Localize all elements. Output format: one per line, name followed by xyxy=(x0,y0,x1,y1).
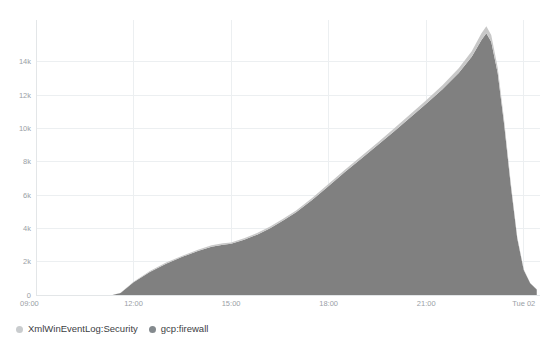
legend-color-swatch-icon xyxy=(149,326,156,333)
chart-canvas[interactable]: 02k4k6k8k10k12k14k 09:0012:0015:0018:002… xyxy=(0,0,558,316)
legend-item-gcp-firewall[interactable]: gcp:firewall xyxy=(149,323,209,335)
x-axis-tick-labels: 09:0012:0015:0018:0021:00Tue 02 xyxy=(20,299,535,308)
y-axis-tick-label: 12k xyxy=(19,91,31,100)
legend-item-label: XmlWinEventLog:Security xyxy=(28,323,138,335)
y-axis-tick-label: 14k xyxy=(19,57,31,66)
legend-color-swatch-icon xyxy=(16,326,23,333)
chart-legend: XmlWinEventLog:Security gcp:firewall xyxy=(16,322,208,336)
x-axis-tick-label: Tue 02 xyxy=(512,299,535,308)
x-axis-tick-label: 12:00 xyxy=(124,299,143,308)
area-chart: 02k4k6k8k10k12k14k 09:0012:0015:0018:002… xyxy=(0,0,558,347)
y-axis-tick-label: 6k xyxy=(23,191,31,200)
legend-item-xmlwineventlog-security[interactable]: XmlWinEventLog:Security xyxy=(16,323,138,335)
y-axis-tick-label: 10k xyxy=(19,124,31,133)
y-axis-tick-label: 4k xyxy=(23,224,31,233)
series-areas xyxy=(36,26,537,295)
x-axis-tick-label: 18:00 xyxy=(319,299,338,308)
y-axis-tick-label: 2k xyxy=(23,257,31,266)
y-axis-tick-label: 8k xyxy=(23,157,31,166)
x-axis-tick-label: 09:00 xyxy=(20,299,39,308)
y-axis-tick-labels: 02k4k6k8k10k12k14k xyxy=(19,57,31,299)
x-axis-tick-label: 15:00 xyxy=(222,299,241,308)
legend-item-label: gcp:firewall xyxy=(161,323,209,335)
plot-area: 02k4k6k8k10k12k14k 09:0012:0015:0018:002… xyxy=(0,0,558,316)
x-axis-tick-label: 21:00 xyxy=(417,299,436,308)
